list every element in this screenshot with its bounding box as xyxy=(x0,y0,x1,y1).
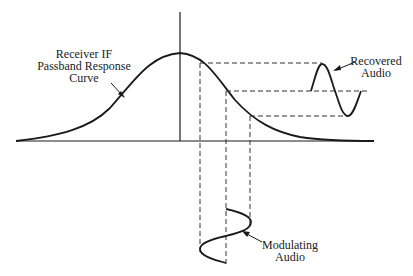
recovered-label-line2: Audio xyxy=(361,66,391,80)
arrowhead-icon xyxy=(333,65,341,71)
recovered-audio-waveform xyxy=(311,64,361,116)
slope-detector-diagram: Receiver IF Passband Response Curve Reco… xyxy=(0,0,413,276)
modulating-label-arrow xyxy=(242,231,262,242)
passband-label-line3: Curve xyxy=(69,71,98,85)
arrowhead-icon xyxy=(242,231,250,237)
modulating-label-line2: Audio xyxy=(275,250,305,264)
passband-label-arrow xyxy=(111,83,125,98)
